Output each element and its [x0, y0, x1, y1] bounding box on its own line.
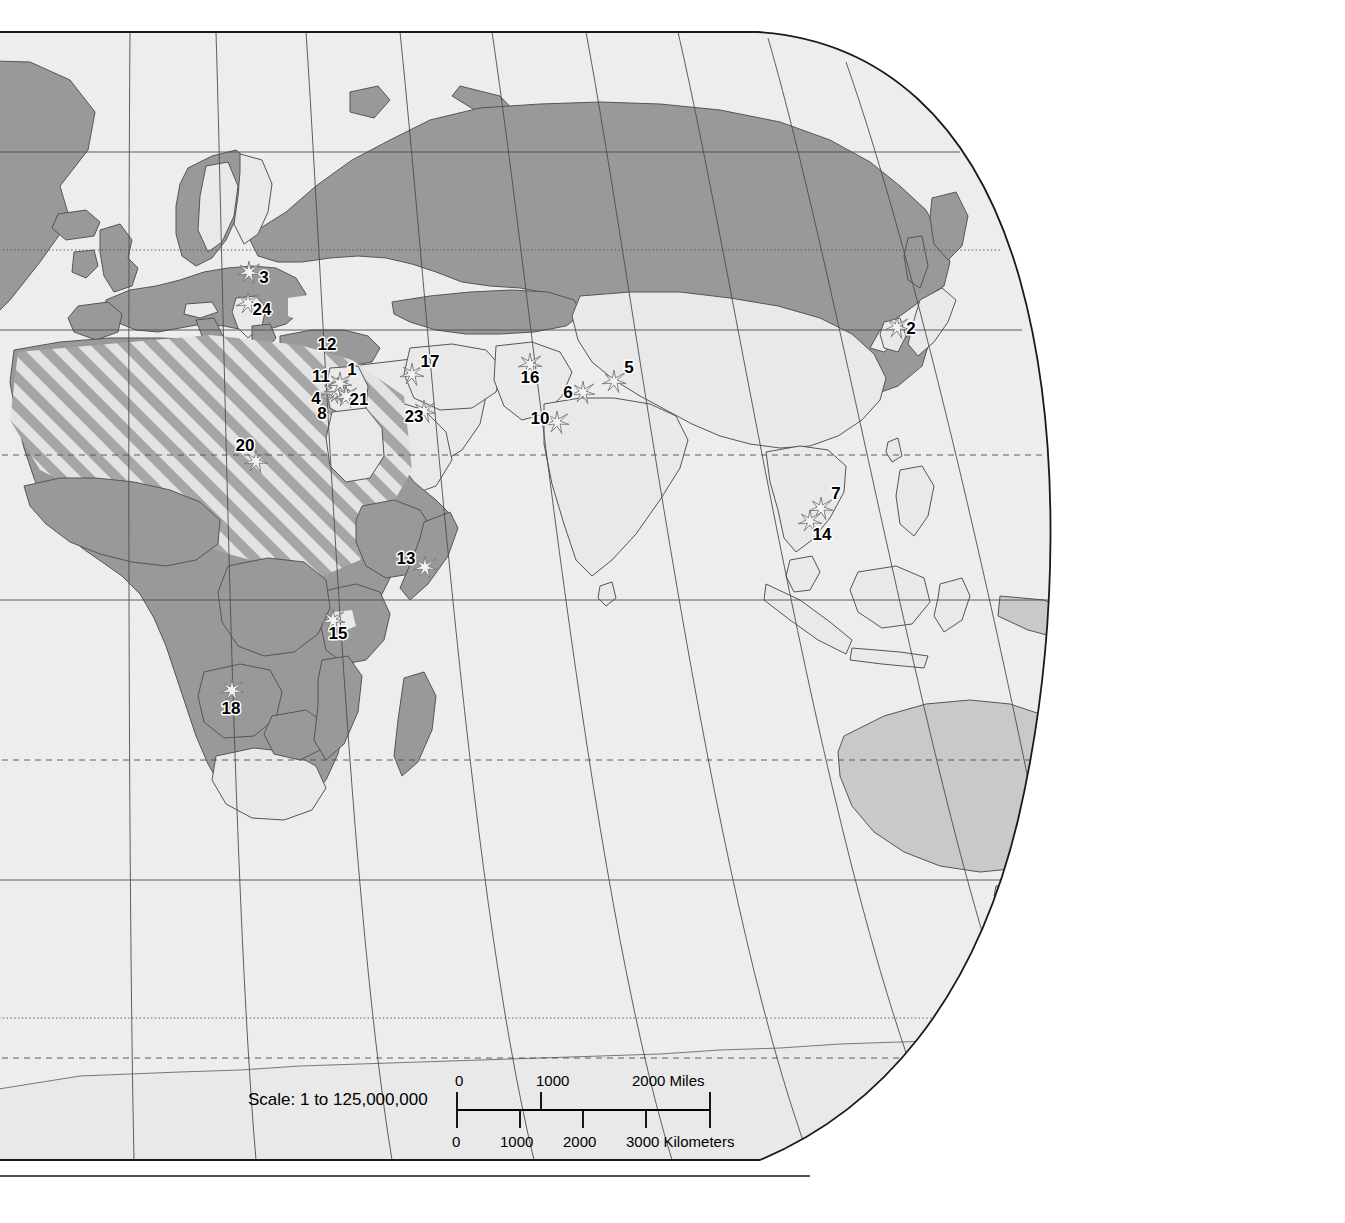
- marker-label-17: 17: [421, 352, 440, 371]
- marker-label-13: 13: [397, 549, 416, 568]
- marker-label-15: 15: [329, 624, 348, 643]
- marker-label-20: 20: [236, 436, 255, 455]
- scale-miles-tick-1: 1000: [536, 1072, 569, 1089]
- world-map-svg: 1122334455667788101011111212131314141515…: [0, 0, 1345, 1223]
- marker-label-5: 5: [624, 358, 633, 377]
- scale-miles-tick-2: 2000 Miles: [632, 1072, 705, 1089]
- marker-label-11: 11: [312, 367, 330, 386]
- marker-label-21: 21: [350, 390, 369, 409]
- marker-label-2: 2: [906, 319, 915, 338]
- scale-km-tick-0: 0: [452, 1133, 460, 1150]
- marker-label-14: 14: [813, 525, 832, 544]
- scale-km-tick-3: 3000 Kilometers: [626, 1133, 734, 1150]
- map-page: 1122334455667788101011111212131314141515…: [0, 0, 1345, 1223]
- marker-label-23: 23: [405, 407, 424, 426]
- marker-label-7: 7: [831, 484, 840, 503]
- marker-label-18: 18: [222, 699, 241, 718]
- marker-label-16: 16: [521, 368, 540, 387]
- marker-label-10: 10: [531, 409, 550, 428]
- scale-miles-tick-0: 0: [455, 1072, 463, 1089]
- marker-label-24: 24: [253, 300, 272, 319]
- marker-label-3: 3: [259, 268, 268, 287]
- marker-label-6: 6: [563, 383, 572, 402]
- marker-label-12: 12: [318, 335, 337, 354]
- marker-label-8: 8: [317, 404, 326, 423]
- scale-km-tick-2: 2000: [563, 1133, 596, 1150]
- scale-km-tick-1: 1000: [500, 1133, 533, 1150]
- scale-ratio-label: Scale: 1 to 125,000,000: [248, 1090, 428, 1109]
